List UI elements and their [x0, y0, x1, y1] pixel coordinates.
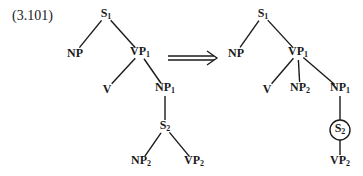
node-label: S	[101, 6, 108, 20]
tree-node-s1: S1	[101, 7, 112, 23]
node-label: VP	[184, 153, 200, 167]
tree-node-np1: NP1	[155, 81, 175, 97]
node-label: NP	[67, 46, 83, 60]
node-subscript: 2	[147, 159, 151, 168]
node-label: NP	[228, 46, 244, 60]
tree-node-np2: NP2	[290, 81, 310, 97]
tree-node-vp2: VP2	[184, 154, 204, 170]
tree-node-vp1: VP1	[130, 45, 150, 61]
node-label: V	[103, 82, 112, 96]
tree-node-s2: S2	[160, 119, 171, 135]
tree-node-vp2: VP2	[330, 154, 350, 170]
node-label: NP	[290, 80, 306, 94]
tree-edge-s2-np2	[145, 133, 161, 156]
tree-node-np2: NP2	[131, 154, 151, 170]
tree-node-v: V	[103, 83, 112, 95]
node-subscript: 2	[166, 124, 170, 133]
node-label: VP	[330, 153, 346, 167]
tree-node-s2: S2	[335, 122, 346, 138]
tree-node-np: NP	[228, 47, 244, 59]
node-label: NP	[330, 80, 346, 94]
tree-edge-s1-np	[79, 20, 101, 47]
node-subscript: 2	[200, 159, 204, 168]
node-label: V	[263, 82, 272, 96]
node-subscript: 1	[146, 50, 150, 59]
tree-node-np1: NP1	[330, 81, 350, 97]
node-subscript: 1	[264, 12, 268, 21]
tree-node-np: NP	[67, 47, 83, 59]
node-label: VP	[288, 44, 304, 58]
node-subscript: 2	[341, 127, 345, 136]
tree-node-v: V	[263, 83, 272, 95]
node-label: S	[258, 6, 265, 20]
node-subscript: 1	[171, 86, 175, 95]
tree-node-vp1: VP1	[288, 45, 308, 61]
node-label: S	[160, 118, 167, 132]
double-right-arrow-icon	[168, 51, 217, 65]
node-subscript: 1	[346, 86, 350, 95]
node-subscript: 2	[346, 159, 350, 168]
tree-node-s1: S1	[258, 7, 269, 23]
node-subscript: 1	[107, 12, 111, 21]
node-label: S	[335, 121, 342, 135]
node-label: VP	[130, 44, 146, 58]
node-subscript: 1	[304, 50, 308, 59]
tree-edge-s1-np	[240, 21, 259, 48]
tree-edge-vp1-np2	[298, 60, 299, 82]
node-label: NP	[155, 80, 171, 94]
node-label: NP	[131, 153, 147, 167]
node-subscript: 2	[306, 86, 310, 95]
tree-edge-vp1-v	[112, 58, 136, 84]
